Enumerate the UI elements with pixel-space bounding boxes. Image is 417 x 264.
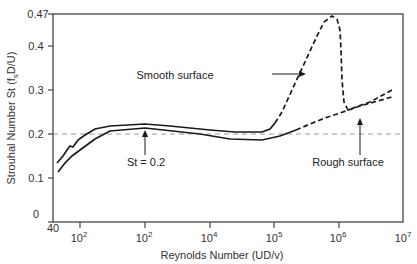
- annotation-rough-surface: Rough surface: [312, 156, 384, 168]
- y-tick-0-47: 0.47: [27, 8, 48, 20]
- smooth-surface-curve-dashed: [275, 16, 392, 123]
- x-tick-1e2-b: 102: [136, 230, 153, 244]
- y-tick-0-4: 0.4: [28, 40, 43, 52]
- x-tick-1e4: 104: [201, 230, 218, 244]
- y-tick-0: 0: [33, 208, 39, 220]
- x-tick-1e5: 105: [266, 230, 283, 244]
- y-axis: [48, 14, 53, 222]
- y-axis-title: Strouhal Number St (fsD/U): [5, 52, 20, 185]
- x-axis-title: Reynolds Number (UD/v): [161, 249, 284, 261]
- y-tick-0-1: 0.1: [28, 172, 43, 184]
- annotation-st-0-2: St = 0.2: [127, 156, 165, 168]
- x-tick-1e7: 107: [395, 230, 412, 244]
- arrow-rough-surface: [357, 118, 363, 155]
- strouhal-chart: 0 0.1 0.2 0.3 0.4 0.47 40 102 102 104 10…: [0, 0, 417, 264]
- arrow-smooth-surface: [272, 71, 306, 77]
- x-tick-labels: 40 102 102 104 105 106 107: [47, 222, 412, 244]
- y-tick-labels: 0 0.1 0.2 0.3 0.4 0.47: [27, 8, 48, 220]
- x-tick-1e2-a: 102: [71, 230, 88, 244]
- x-tick-1e6: 106: [330, 230, 347, 244]
- plot-frame: [53, 14, 403, 222]
- y-tick-0-2: 0.2: [28, 128, 43, 140]
- annotation-smooth-surface: Smooth surface: [136, 69, 213, 81]
- rough-surface-curve-solid: [58, 128, 296, 172]
- x-tick-40: 40: [47, 222, 59, 234]
- y-tick-0-3: 0.3: [28, 84, 43, 96]
- x-axis: [80, 222, 339, 228]
